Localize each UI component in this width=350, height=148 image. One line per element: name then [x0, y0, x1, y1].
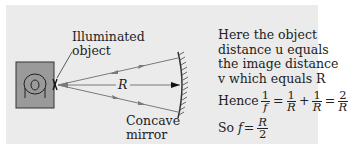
distance-label: R — [118, 78, 127, 92]
focal-length-equation: So f = R2 — [218, 117, 350, 140]
object-label: Illuminated object — [72, 30, 145, 58]
explanation-text: Here the object distance u equals the im… — [218, 28, 350, 140]
lens-equation: Hence 1f = 1R + 1R = 2R — [218, 90, 350, 113]
object-box — [16, 62, 54, 108]
mirror-label: Concave mirror — [126, 114, 180, 142]
